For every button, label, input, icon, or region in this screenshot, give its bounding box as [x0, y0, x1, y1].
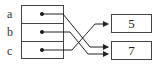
arrow-b-to-7: [42, 32, 108, 54]
arrow-a-to-7: [42, 14, 108, 47]
pointer-arrows: [0, 0, 158, 66]
